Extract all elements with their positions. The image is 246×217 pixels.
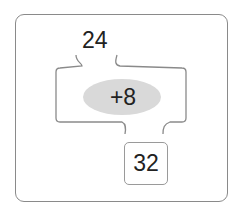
operation-label: +8 (84, 79, 162, 115)
output-box: 32 (124, 142, 168, 185)
output-value: 32 (133, 150, 159, 176)
